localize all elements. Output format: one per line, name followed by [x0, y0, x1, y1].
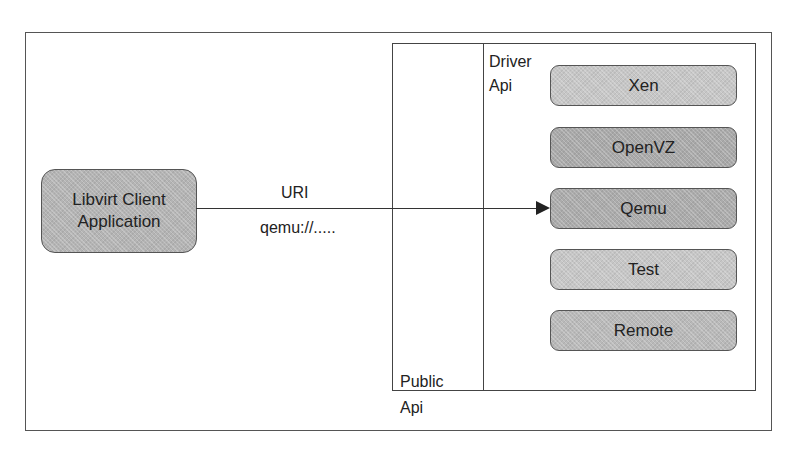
driver-openvz[interactable]: OpenVZ [550, 127, 737, 168]
public-driver-api-divider [483, 43, 484, 391]
driver-qemu[interactable]: Qemu [550, 188, 737, 229]
client-label-line1: Libvirt Client [72, 189, 166, 211]
arrow-head-icon [536, 201, 550, 215]
driver-test-label: Test [628, 260, 659, 280]
uri-label: URI [281, 183, 309, 203]
client-label: Libvirt Client Application [72, 189, 166, 233]
driver-xen-label: Xen [628, 76, 658, 96]
connection-arrow-line [196, 208, 536, 209]
public-api-label-line2: Api [400, 398, 423, 418]
driver-api-label-line2: Api [489, 76, 512, 96]
libvirt-client-application-box[interactable]: Libvirt Client Application [41, 169, 197, 253]
driver-test[interactable]: Test [550, 249, 737, 290]
uri-example-label: qemu://..... [260, 218, 336, 238]
driver-qemu-label: Qemu [620, 199, 666, 219]
client-label-line2: Application [72, 211, 166, 233]
driver-openvz-label: OpenVZ [612, 138, 675, 158]
driver-remote[interactable]: Remote [550, 310, 737, 351]
driver-api-label-line1: Driver [489, 52, 532, 72]
driver-remote-label: Remote [614, 321, 674, 341]
public-api-label-line1: Public [400, 372, 444, 392]
driver-xen[interactable]: Xen [550, 65, 737, 106]
